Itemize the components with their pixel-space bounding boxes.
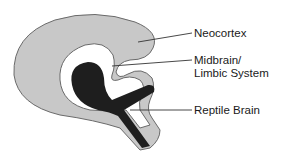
reptile-brain-label: Reptile Brain	[194, 104, 260, 117]
triune-brain-diagram	[0, 0, 284, 166]
neocortex-label: Neocortex	[194, 27, 246, 40]
midbrain-label-line1: Midbrain/	[194, 54, 241, 67]
midbrain-label-line2: Limbic System	[194, 67, 269, 80]
